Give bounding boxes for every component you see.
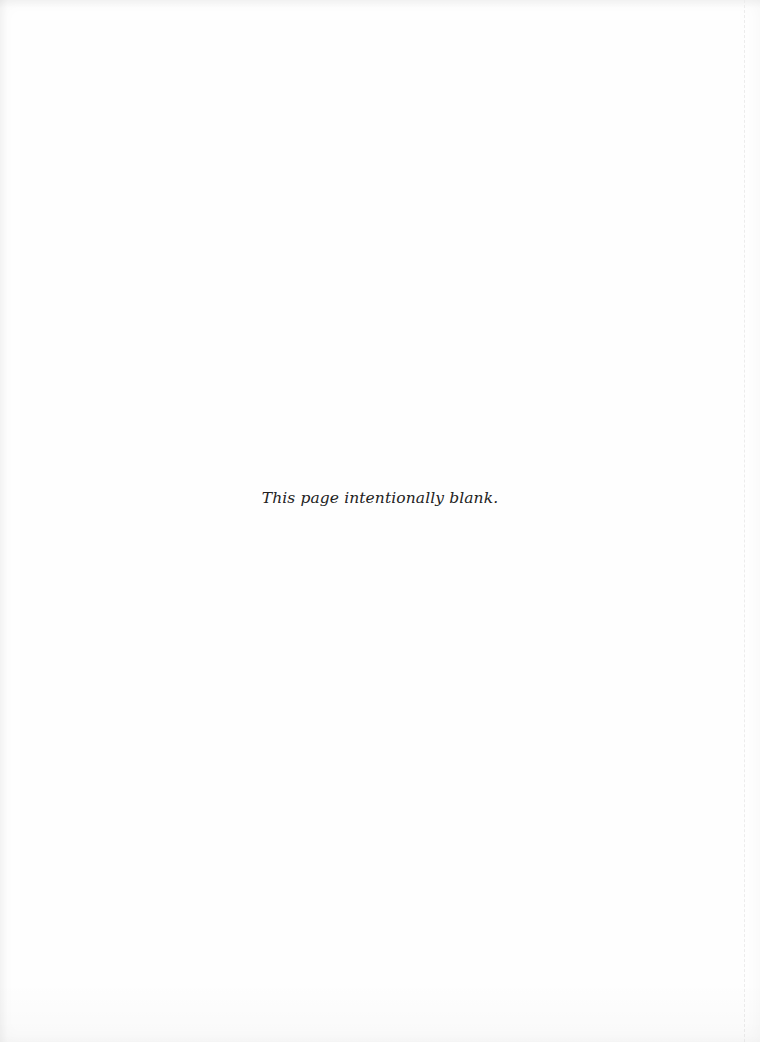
- scan-shading: [0, 982, 760, 1042]
- document-page: This page intentionally blank.: [0, 0, 760, 1042]
- intentionally-blank-note: This page intentionally blank.: [0, 487, 760, 509]
- scan-edge-line: [744, 0, 745, 1042]
